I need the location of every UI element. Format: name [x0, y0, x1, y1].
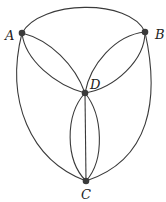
label-a: A — [4, 28, 14, 43]
edge-a-d-1 — [22, 33, 85, 93]
edge-a-d-2 — [22, 33, 85, 93]
edge-d-c-left — [70, 93, 86, 181]
node-b — [142, 29, 149, 36]
node-c — [83, 178, 90, 185]
label-b: B — [154, 27, 165, 42]
edge-a-b — [22, 7, 145, 33]
edge-d-c-right — [85, 93, 99, 181]
edge-d-c-straight — [85, 93, 86, 181]
node-a — [19, 30, 26, 37]
label-d: D — [89, 77, 101, 92]
graph-diagram: A B D C — [0, 0, 166, 202]
edge-b-c — [86, 32, 151, 181]
node-d — [82, 90, 89, 97]
label-c: C — [81, 187, 91, 202]
